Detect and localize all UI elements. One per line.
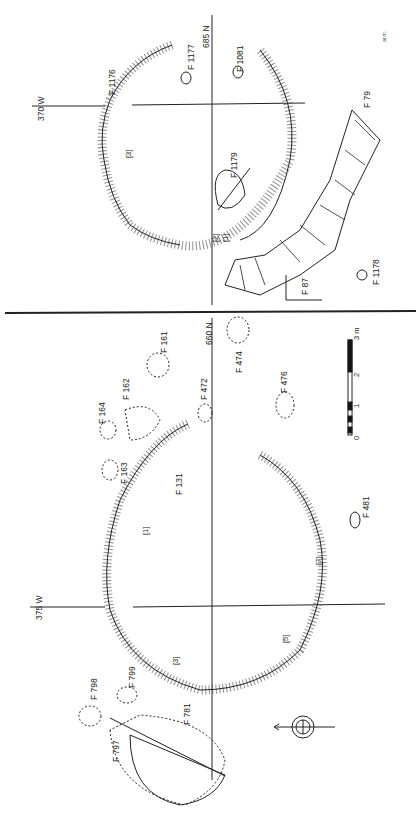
section-mark: [1]: [222, 234, 230, 242]
feature-label: F 79: [363, 91, 372, 108]
feature-label: F 1081: [236, 46, 245, 72]
section-mark: [3]: [172, 657, 180, 665]
initials: ar.m.: [382, 31, 387, 42]
scale-tick: 2: [353, 373, 361, 377]
feature-label: F 472: [200, 378, 209, 400]
feature-label: F 1178: [372, 259, 381, 285]
feature-label: F 474: [235, 351, 244, 373]
section-mark: [2]: [212, 234, 220, 242]
feature-label: F 131: [175, 473, 184, 495]
section-mark: [5]: [282, 635, 290, 643]
feature-label: F 1176: [108, 69, 117, 95]
north-arrow-icon: [274, 716, 335, 738]
feature-label: F 163: [120, 462, 129, 484]
feature-label: F 799: [128, 666, 137, 688]
feature-label: F 161: [160, 331, 169, 353]
scale-tick: 1: [353, 404, 361, 408]
section-mark: [3]: [125, 150, 133, 158]
feature-label: F 781: [183, 703, 192, 725]
panel-divider: [5, 311, 416, 313]
grid-label-660n: 660 N: [205, 322, 214, 345]
grid-label-685n: 685 N: [202, 25, 211, 48]
section-mark: [1]: [142, 527, 150, 535]
scale-label: 3 m: [353, 327, 361, 340]
feature-label: F 798: [90, 678, 99, 700]
grid-label-375w: 375 W: [35, 595, 44, 620]
scale-tick: 0: [353, 436, 361, 440]
feature-label: F 1179: [230, 152, 239, 178]
grid-label-370w: 370 W: [37, 96, 46, 121]
feature-label: F 476: [280, 371, 289, 393]
section-mark: [7]: [315, 557, 323, 565]
feature-label: F 1177: [187, 44, 196, 70]
feature-label: F 797: [112, 740, 121, 762]
feature-label: F 164: [98, 402, 107, 424]
feature-label: F 87: [301, 278, 310, 295]
feature-label: F 162: [122, 378, 131, 400]
feature-label: F 481: [362, 496, 371, 518]
